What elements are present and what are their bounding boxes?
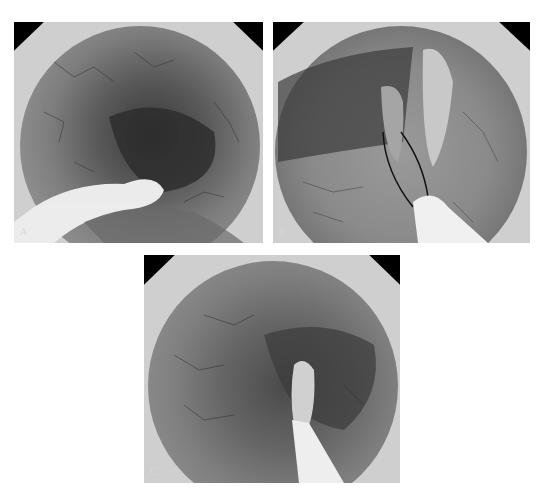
lumen-illustration-a <box>14 22 263 243</box>
endoscope-view-c: C <box>144 255 400 483</box>
panel-label-a: A <box>20 226 27 237</box>
lumen-illustration-c <box>144 255 400 483</box>
lumen-illustration-b <box>273 22 530 243</box>
endoscope-view-b: B <box>273 22 530 243</box>
endoscope-view-a: A <box>14 22 263 243</box>
panel-b: B <box>273 22 530 243</box>
panel-label-c: C <box>150 466 157 477</box>
panel-a: A <box>14 22 263 243</box>
panel-c: C <box>144 255 400 483</box>
panel-label-b: B <box>279 226 286 237</box>
